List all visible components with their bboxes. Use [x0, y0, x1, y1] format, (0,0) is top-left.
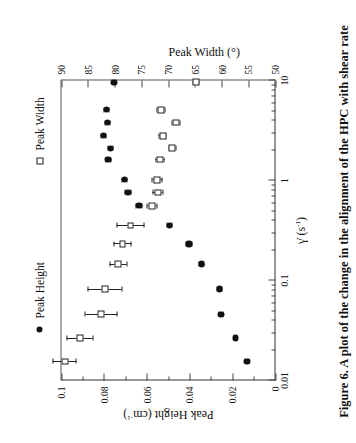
- y-left-minor-tick: [211, 377, 212, 381]
- filled-circle-marker-icon: [37, 326, 43, 332]
- y-right-major-tick: [275, 81, 276, 88]
- legend-label-peak-width: Peak Width: [34, 97, 46, 150]
- y-left-minor-tick: [168, 377, 169, 381]
- open-square-marker: [127, 222, 134, 229]
- axis-title-peak-height: Peak Height (cm-1): [123, 407, 214, 422]
- error-bar-cap: [52, 359, 53, 364]
- error-bar-cap: [76, 359, 77, 364]
- y-right-tick-label-70: 70: [164, 65, 174, 75]
- x-minor-tick: [272, 302, 276, 303]
- y-left-tick-label-0.06: 0.06: [142, 387, 152, 404]
- open-square-marker: [154, 176, 161, 183]
- top-axis-line: [61, 80, 62, 381]
- chart-canvas: Peak Width (°) Peak Height (cm-1) γ̇ (s-…: [22, 0, 312, 443]
- y-left-tick-label-0: 0: [271, 387, 281, 392]
- error-bar-cap: [92, 336, 93, 341]
- y-right-major-tick: [222, 81, 223, 88]
- legend-label-peak-height: Peak Height: [34, 262, 46, 319]
- filled-circle-marker: [111, 79, 117, 85]
- x-minor-tick: [272, 320, 276, 321]
- error-bar-cap: [164, 157, 165, 162]
- x-minor-tick: [272, 220, 276, 221]
- figure-caption-text: Figure 6. A plot of the change in the al…: [337, 25, 352, 418]
- error-bar-cap: [147, 203, 148, 208]
- x-minor-tick: [272, 102, 276, 103]
- x-minor-tick: [272, 210, 276, 211]
- x-minor-tick: [272, 350, 276, 351]
- error-bar-cap: [85, 312, 86, 317]
- open-square-marker: [154, 189, 161, 196]
- x-minor-tick: [272, 90, 276, 91]
- error-bar-cap: [162, 177, 163, 182]
- y-left-tick-label-0.08: 0.08: [99, 387, 109, 404]
- y-left-major-tick: [232, 374, 233, 381]
- open-square-marker: [61, 358, 68, 365]
- open-square-marker: [115, 261, 122, 268]
- open-square-marker: [157, 156, 164, 163]
- x-minor-tick: [272, 296, 276, 297]
- y-left-minor-tick: [254, 377, 255, 381]
- y-left-minor-tick: [82, 377, 83, 381]
- filled-circle-marker: [125, 189, 131, 195]
- error-bar-cap: [113, 241, 114, 246]
- filled-circle-marker: [186, 241, 192, 247]
- x-minor-tick: [272, 232, 276, 233]
- error-bar-cap: [66, 336, 67, 341]
- y-right-tick-label-75: 75: [137, 65, 147, 75]
- y-right-major-tick: [88, 81, 89, 88]
- open-square-marker-icon: [37, 158, 44, 165]
- error-bar-cap: [126, 262, 127, 267]
- y-right-major-tick: [248, 81, 249, 88]
- open-square-marker: [169, 145, 176, 152]
- x-minor-tick: [272, 202, 276, 203]
- filled-circle-marker: [218, 311, 224, 317]
- x-minor-tick: [272, 150, 276, 151]
- x-minor-tick: [272, 310, 276, 311]
- figure-caption: Figure 6. A plot of the change in the al…: [331, 0, 356, 443]
- error-bar-cap: [117, 312, 118, 317]
- error-bar-cap: [152, 190, 153, 195]
- error-bar-cap: [156, 203, 157, 208]
- x-minor-tick: [272, 196, 276, 197]
- x-minor-tick: [272, 110, 276, 111]
- filled-circle-marker: [136, 202, 142, 208]
- error-bar-cap: [87, 287, 88, 292]
- y-left-tick-label-0.1: 0.1: [57, 387, 67, 399]
- open-square-marker: [119, 241, 126, 248]
- open-square-marker: [192, 79, 199, 86]
- x-minor-tick: [272, 132, 276, 133]
- y-right-tick-label-55: 55: [244, 65, 254, 75]
- y-left-major-tick: [189, 374, 190, 381]
- x-major-tick: [269, 280, 276, 281]
- axis-title-shear-rate: γ̇ (s-1): [294, 217, 309, 244]
- filled-circle-marker: [244, 358, 250, 364]
- open-square-marker: [173, 119, 180, 126]
- filled-circle-marker: [216, 286, 222, 292]
- x-minor-tick: [272, 96, 276, 97]
- error-bar-cap: [144, 223, 145, 228]
- x-minor-tick: [272, 285, 276, 286]
- x-tick-label-0.01: 0.01: [280, 372, 290, 389]
- error-bar-cap: [121, 287, 122, 292]
- error-bar-cap: [131, 241, 132, 246]
- x-major-tick: [269, 180, 276, 181]
- plot-area: [62, 81, 276, 381]
- x-minor-tick: [272, 250, 276, 251]
- open-square-marker: [149, 202, 156, 209]
- y-right-tick-label-80: 80: [110, 65, 120, 75]
- open-square-marker: [159, 132, 166, 139]
- x-tick-label-0.1: 0.1: [280, 275, 290, 287]
- y-left-tick-label-0.02: 0.02: [228, 387, 238, 404]
- y-left-major-tick: [147, 374, 148, 381]
- x-minor-tick: [272, 290, 276, 291]
- right-axis-line: [62, 80, 276, 81]
- error-bar-cap: [109, 262, 110, 267]
- y-left-major-tick: [61, 374, 62, 381]
- y-left-major-tick: [275, 374, 276, 381]
- open-square-marker: [76, 335, 83, 342]
- y-right-tick-label-85: 85: [83, 65, 93, 75]
- x-minor-tick: [272, 190, 276, 191]
- x-minor-tick: [272, 332, 276, 333]
